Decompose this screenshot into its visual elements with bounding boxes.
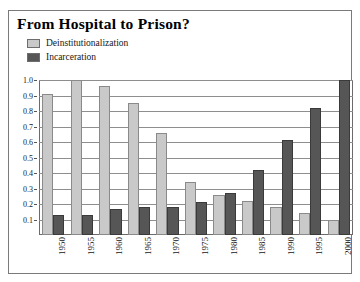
bar-deinstitutionalization-1965 — [128, 103, 139, 235]
bar-deinstitutionalization-1970 — [156, 133, 167, 235]
bar-deinstitutionalization-1960 — [99, 86, 110, 235]
y-axis-tick-mark — [34, 220, 37, 221]
y-axis-tick-mark — [34, 142, 37, 143]
bar-group — [270, 80, 292, 235]
bar-incarceration-1965 — [139, 207, 150, 235]
x-axis-tick-label: 1960 — [114, 237, 124, 255]
bar-deinstitutionalization-1955 — [71, 80, 82, 235]
bar-incarceration-1975 — [196, 202, 207, 235]
bar-incarceration-2000 — [339, 80, 350, 235]
bar-deinstitutionalization-1975 — [185, 182, 196, 235]
chart-legend: Deinstitutionalization Incarceration — [27, 37, 128, 65]
bar-group — [242, 80, 264, 235]
x-axis-tick-label: 1990 — [286, 237, 296, 255]
legend-item-deinstitutionalization: Deinstitutionalization — [27, 37, 128, 49]
legend-label-incarceration: Incarceration — [46, 52, 96, 62]
bar-group — [42, 80, 64, 235]
bar-incarceration-1970 — [167, 207, 178, 235]
bar-incarceration-1980 — [225, 193, 236, 235]
bar-deinstitutionalization-1995 — [299, 213, 310, 235]
y-axis-tick-label: 0.5 — [23, 153, 33, 162]
x-axis-tick-label: 1955 — [86, 237, 96, 255]
y-axis-tick-label: 0.7 — [23, 122, 33, 131]
bar-group — [299, 80, 321, 235]
y-axis-tick-mark — [34, 189, 37, 190]
y-axis-tick-label: 0.2 — [23, 200, 33, 209]
y-axis-tick-label: 0.1 — [23, 215, 33, 224]
legend-swatch-incarceration — [27, 53, 40, 62]
bar-incarceration-1950 — [53, 215, 64, 235]
bar-deinstitutionalization-1985 — [242, 201, 253, 235]
page-title: From Hospital to Prison? — [17, 15, 190, 33]
bar-deinstitutionalization-1950 — [42, 94, 53, 235]
x-axis-tick-label: 2000 — [343, 237, 353, 255]
y-axis: 0.10.20.30.40.50.60.70.80.91.0 — [13, 80, 37, 235]
bar-incarceration-1990 — [282, 140, 293, 235]
x-axis-tick-label: 1995 — [314, 237, 324, 255]
bar-group — [99, 80, 121, 235]
bar-series-container — [39, 80, 353, 235]
bar-deinstitutionalization-1980 — [213, 195, 224, 235]
legend-swatch-deinstitutionalization — [27, 39, 40, 48]
y-axis-tick-label: 0.9 — [23, 91, 33, 100]
bar-group — [156, 80, 178, 235]
x-axis-tick-label: 1950 — [57, 237, 67, 255]
figure-panel: From Hospital to Prison? Deinstitutional… — [8, 10, 352, 274]
bar-incarceration-1985 — [253, 170, 264, 235]
bar-group — [128, 80, 150, 235]
x-axis-tick-label: 1980 — [229, 237, 239, 255]
bar-group — [213, 80, 235, 235]
y-axis-tick-mark — [34, 173, 37, 174]
plot-area: 0.10.20.30.40.50.60.70.80.91.0 — [39, 80, 353, 235]
y-axis-tick-mark — [34, 96, 37, 97]
y-axis-tick-label: 0.4 — [23, 169, 33, 178]
y-axis-tick-mark — [34, 204, 37, 205]
y-axis-tick-mark — [34, 80, 37, 81]
y-axis-tick-mark — [34, 111, 37, 112]
bar-group — [71, 80, 93, 235]
x-axis-tick-label: 1970 — [171, 237, 181, 255]
y-axis-tick-label: 0.8 — [23, 107, 33, 116]
x-axis-tick-label: 1975 — [200, 237, 210, 255]
bar-incarceration-1960 — [110, 209, 121, 235]
y-axis-tick-label: 1.0 — [23, 76, 33, 85]
bar-deinstitutionalization-1990 — [270, 207, 281, 235]
y-axis-tick-label: 0.6 — [23, 138, 33, 147]
x-axis-tick-label: 1965 — [143, 237, 153, 255]
bar-incarceration-1995 — [310, 108, 321, 235]
bar-deinstitutionalization-2000 — [328, 220, 339, 236]
y-axis-tick-mark — [34, 158, 37, 159]
bar-group — [185, 80, 207, 235]
bar-incarceration-1955 — [82, 215, 93, 235]
legend-label-deinstitutionalization: Deinstitutionalization — [46, 38, 128, 48]
bar-group — [328, 80, 350, 235]
y-axis-tick-label: 0.3 — [23, 184, 33, 193]
y-axis-tick-mark — [34, 127, 37, 128]
x-axis-tick-label: 1985 — [257, 237, 267, 255]
x-axis: 1950195519601965197019751980198519901995… — [39, 237, 353, 282]
legend-item-incarceration: Incarceration — [27, 51, 128, 63]
